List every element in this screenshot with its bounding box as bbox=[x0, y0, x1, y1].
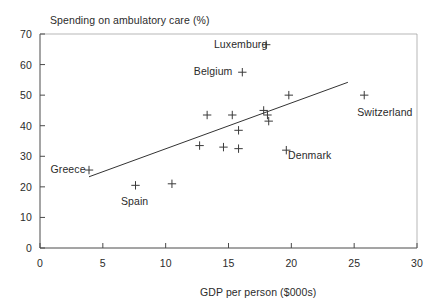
x-tick-label-1: 5 bbox=[91, 257, 115, 269]
x-tick-label-0: 0 bbox=[28, 257, 52, 269]
trend-line bbox=[89, 82, 348, 176]
data-point-9 bbox=[234, 126, 242, 134]
data-point-markers bbox=[85, 41, 369, 190]
data-point-switzerland bbox=[360, 91, 368, 99]
y-tick-label-5: 50 bbox=[10, 89, 32, 101]
y-tick-label-2: 20 bbox=[10, 181, 32, 193]
data-point-8 bbox=[265, 117, 273, 125]
data-point-10 bbox=[195, 141, 203, 149]
y-axis-title: Spending on ambulatory care (%) bbox=[50, 14, 210, 26]
data-point-11 bbox=[219, 143, 227, 151]
data-point-greece bbox=[85, 166, 93, 174]
y-tick-label-4: 40 bbox=[10, 120, 32, 132]
annotation-denmark: Denmark bbox=[288, 149, 331, 161]
y-tick-label-7: 70 bbox=[10, 28, 32, 40]
annotation-greece: Greece bbox=[51, 163, 86, 175]
data-point-belgium bbox=[238, 68, 246, 76]
data-point-7 bbox=[263, 111, 271, 119]
scatter-chart-figure: Spending on ambulatory care (%) GDP per … bbox=[0, 0, 440, 307]
x-tick-label-6: 30 bbox=[405, 257, 429, 269]
x-tick-label-2: 10 bbox=[154, 257, 178, 269]
data-point-3 bbox=[228, 111, 236, 119]
annotation-spain: Spain bbox=[121, 195, 148, 207]
data-point-4 bbox=[259, 106, 267, 114]
x-tick-label-4: 20 bbox=[279, 257, 303, 269]
annotation-switzerland: Switzerland bbox=[357, 106, 412, 118]
x-tick-label-5: 25 bbox=[342, 257, 366, 269]
data-point-15 bbox=[131, 181, 139, 189]
x-axis-title: GDP per person ($000s) bbox=[200, 286, 316, 298]
data-point-12 bbox=[234, 144, 242, 152]
annotation-belgium: Belgium bbox=[194, 65, 233, 77]
y-tick-label-3: 30 bbox=[10, 150, 32, 162]
data-point-2 bbox=[203, 111, 211, 119]
annotation-luxemburg: Luxemburg bbox=[214, 38, 267, 50]
data-point-5 bbox=[285, 91, 293, 99]
y-tick-label-1: 10 bbox=[10, 211, 32, 223]
y-tick-label-6: 60 bbox=[10, 59, 32, 71]
data-point-16 bbox=[168, 180, 176, 188]
x-tick-label-3: 15 bbox=[217, 257, 241, 269]
y-tick-label-0: 0 bbox=[10, 242, 32, 254]
